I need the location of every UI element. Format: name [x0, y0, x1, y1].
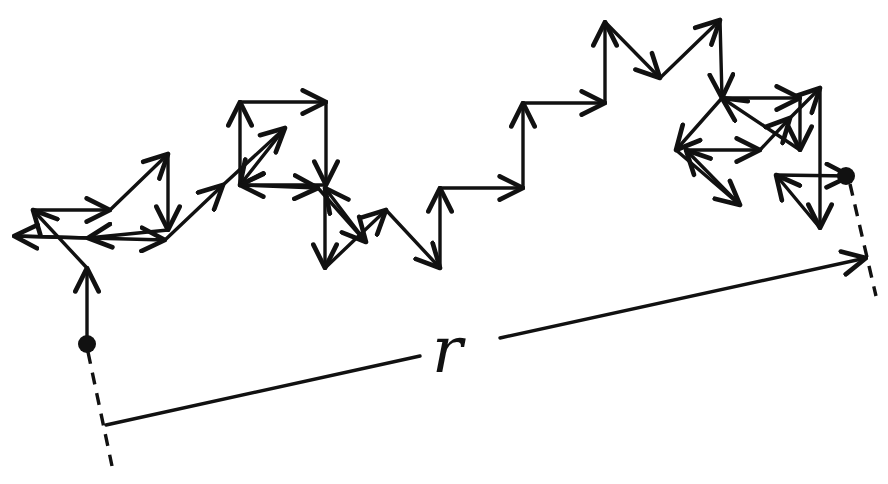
walk-steps: [14, 20, 850, 344]
walk-step-arrow: [676, 98, 722, 150]
displacement-vector: [106, 258, 866, 425]
walk-step-arrow: [110, 154, 168, 210]
walk-step-arrow: [325, 210, 386, 268]
walk-step-arrow: [223, 128, 285, 185]
walk-step-arrow: [776, 175, 820, 228]
end-dot: [837, 167, 855, 185]
start-dot: [78, 335, 96, 353]
displacement-line-left: [106, 356, 420, 425]
walk-step-arrow: [386, 210, 440, 268]
walk-step-arrow: [14, 236, 165, 240]
walk-step-arrow: [605, 22, 660, 78]
walk-step-arrow: [165, 185, 223, 240]
walk-step-arrow: [686, 150, 740, 205]
walk-step-arrow: [790, 88, 820, 118]
walk-step-arrow: [720, 20, 722, 98]
dashed-guide-end: [850, 184, 876, 296]
walk-step-arrow: [660, 20, 720, 78]
random-walk-diagram: [0, 0, 888, 484]
displacement-label: r: [432, 318, 463, 382]
dashed-guide-start: [88, 352, 112, 466]
walk-step-arrow: [240, 128, 285, 185]
walk-step-arrow: [760, 118, 790, 150]
walk-step-arrow: [722, 98, 800, 150]
displacement-line-right: [500, 258, 866, 338]
